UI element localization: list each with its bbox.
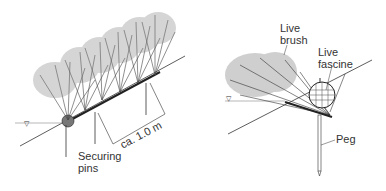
live-brush-label: Live brush bbox=[280, 22, 308, 46]
peg-label: Peg bbox=[336, 133, 356, 145]
peg bbox=[318, 115, 321, 171]
right-diagram: ▽ bbox=[0, 0, 386, 191]
live-fascine-label: Live fascine bbox=[318, 46, 353, 70]
diagram-figure: ▽ bbox=[0, 0, 386, 191]
